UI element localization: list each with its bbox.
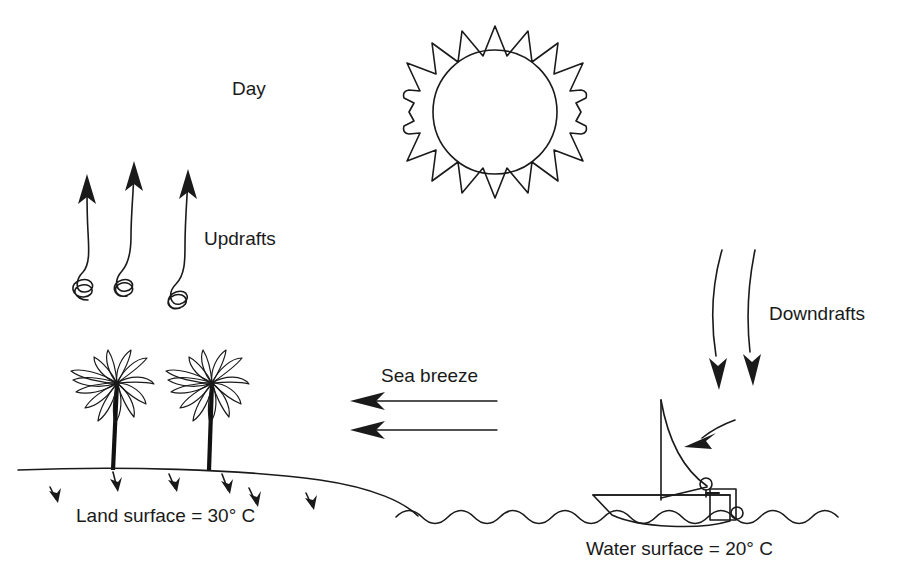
land-heat-tick-2 bbox=[168, 474, 180, 492]
palm-fronds-1 bbox=[71, 350, 154, 423]
downdraft-arrowhead-1 bbox=[709, 358, 727, 390]
updraft-arrow-3 bbox=[168, 169, 197, 309]
downdraft-arrow-2 bbox=[743, 250, 761, 386]
downdraft-arrows bbox=[709, 250, 761, 390]
boat-boom bbox=[661, 487, 707, 498]
diagram-canvas: Day Updrafts Downdrafts Sea breeze Land … bbox=[0, 0, 911, 581]
sea-breeze-diagram: Day Updrafts Downdrafts Sea breeze Land … bbox=[0, 0, 911, 581]
land-heat-tick-6 bbox=[49, 487, 61, 503]
updraft-arrow-1 bbox=[73, 174, 96, 300]
sailboat bbox=[593, 400, 743, 527]
land-surface-label: Land surface = 30° C bbox=[76, 505, 255, 526]
downdraft-arrowhead-2 bbox=[743, 354, 761, 386]
updraft-arrows bbox=[73, 161, 197, 309]
sea-breeze-label: Sea breeze bbox=[381, 365, 478, 386]
boat-fender bbox=[731, 507, 743, 519]
palm-tree-1 bbox=[71, 350, 154, 470]
updraft-arrow-2 bbox=[114, 161, 143, 296]
downdraft-arrow-1 bbox=[709, 250, 727, 390]
downdrafts-label: Downdrafts bbox=[769, 303, 865, 324]
sun-icon bbox=[404, 26, 587, 198]
boat-wind-arrowhead bbox=[684, 433, 716, 449]
sea-breeze-arrow-1 bbox=[350, 392, 497, 410]
updrafts-label: Updrafts bbox=[204, 228, 276, 249]
land-heat-tick-5 bbox=[305, 493, 317, 510]
day-label: Day bbox=[232, 78, 266, 99]
sea-breeze-arrows bbox=[350, 392, 497, 439]
land-heat-tick-3 bbox=[221, 474, 233, 494]
land-heat-tick-1 bbox=[110, 472, 122, 492]
palm-fronds-2 bbox=[166, 350, 249, 423]
palm-tree-2 bbox=[166, 350, 249, 470]
water-surface-label: Water surface = 20° C bbox=[586, 538, 773, 559]
sea-breeze-arrow-2 bbox=[350, 421, 497, 439]
boat-wind-arrow bbox=[684, 420, 735, 449]
sun-disc bbox=[433, 50, 557, 174]
person-head bbox=[700, 478, 712, 490]
updraft-arrowhead-3 bbox=[179, 169, 197, 199]
